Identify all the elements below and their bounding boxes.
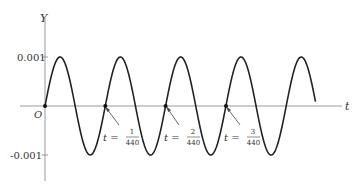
t-axis-label: t	[345, 100, 350, 113]
origin-point	[43, 104, 47, 108]
origin-label: O	[34, 109, 42, 120]
point-t1	[103, 104, 107, 108]
annotation-t1: t = 1 440	[103, 128, 139, 147]
svg-text:2: 2	[191, 128, 195, 136]
annotation-t3: t = 3 440	[224, 128, 260, 147]
svg-text:440: 440	[126, 139, 139, 147]
svg-text:440: 440	[247, 139, 260, 147]
y-tick-label-pos: 0.001	[17, 52, 46, 63]
svg-text:1: 1	[130, 128, 134, 136]
svg-text:3: 3	[251, 128, 255, 136]
annotation-arrows	[106, 108, 240, 126]
svg-text:t =: t =	[224, 132, 240, 143]
svg-text:t =: t =	[103, 132, 119, 143]
y-axis-label: Y	[40, 12, 49, 25]
y-tick-label-neg: -0.001	[10, 150, 42, 161]
sine-wave-chart: Y t 0.001 -0.001 O t = 1 440 t = 2 440 t…	[0, 0, 362, 185]
svg-text:440: 440	[187, 139, 200, 147]
annotation-t2: t = 2 440	[164, 128, 200, 147]
svg-text:t =: t =	[164, 132, 180, 143]
